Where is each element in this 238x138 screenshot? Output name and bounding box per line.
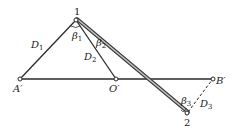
angle-beta1-arc	[71, 26, 80, 28]
point-a	[18, 77, 22, 81]
geometry-diagram: 1 A′ O′ B′ 2 D1 D2 D3 β1 β2 β3	[0, 0, 238, 138]
point-o-label: O′	[109, 83, 120, 94]
point-1	[74, 18, 78, 22]
label-beta1: β1	[71, 30, 82, 43]
point-2-label: 2	[184, 117, 190, 128]
segment-d2	[76, 20, 116, 79]
point-2	[185, 111, 189, 115]
label-d3: D3	[199, 98, 213, 111]
point-b	[211, 77, 215, 81]
double-line-1-2-inner	[77, 19, 188, 112]
point-b-label: B′	[215, 75, 226, 86]
label-beta2: β2	[95, 37, 106, 50]
label-d1: D1	[30, 39, 44, 52]
segment-d1	[20, 20, 76, 79]
point-o	[114, 77, 118, 81]
point-a-label: A′	[12, 83, 23, 94]
label-d2: D2	[83, 51, 97, 64]
point-1-label: 1	[74, 6, 80, 17]
